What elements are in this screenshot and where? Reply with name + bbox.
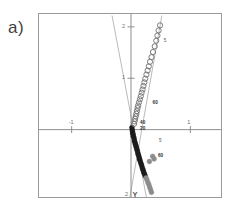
data-point-open	[140, 87, 145, 92]
data-point-open	[141, 83, 146, 88]
y-axis-label: Y	[133, 190, 138, 198]
data-point-open	[149, 55, 154, 60]
point-annotation: 60	[153, 100, 158, 105]
data-point-open	[142, 80, 147, 85]
data-point-open	[154, 38, 159, 43]
data-point-open	[138, 94, 143, 99]
y-tick-label-2: 2	[125, 191, 128, 197]
figure-panel: a) -1112XY26052040605	[0, 0, 234, 212]
point-annotation: 5	[159, 138, 162, 143]
point-annotation: 20	[140, 126, 145, 131]
data-point-filled	[149, 190, 154, 195]
data-point-open	[155, 33, 160, 38]
point-annotation: 5	[164, 38, 167, 43]
x-tick-label: 1	[187, 119, 190, 125]
point-annotation: 40	[140, 120, 145, 125]
plot-vector-layer	[39, 14, 222, 198]
data-point-filled	[152, 157, 157, 162]
panel-label: a)	[8, 18, 24, 38]
y-tick-label: 2	[122, 23, 125, 29]
data-point-open	[150, 49, 155, 54]
y-tick-label: 1	[122, 74, 125, 80]
plot-frame: -1112XY26052040605	[38, 13, 222, 198]
x-tick-label: -1	[69, 119, 74, 125]
data-point-filled	[147, 159, 152, 164]
point-annotation: 60	[158, 153, 163, 158]
